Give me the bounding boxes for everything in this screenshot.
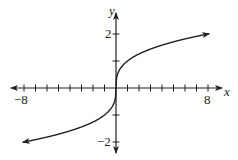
x-min-label: −8 (14, 92, 28, 107)
x-max-label: 8 (204, 92, 211, 107)
x-axis-label: x (223, 84, 230, 99)
y-max-label: 2 (105, 26, 112, 41)
cube-root-curve-right-arrow (206, 34, 209, 35)
y-min-label: −2 (97, 134, 111, 149)
cube-root-graph: x y −8 8 2 −2 (0, 0, 238, 160)
cube-root-curve-left-arrow (23, 142, 26, 143)
y-axis-label: y (107, 3, 115, 18)
